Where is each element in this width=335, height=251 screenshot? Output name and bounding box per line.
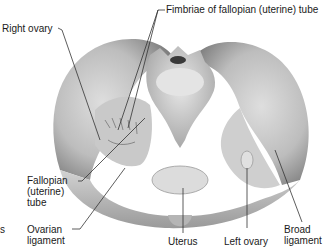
label-left-ovary: Left ovary: [224, 236, 268, 247]
label-broad-ligament: Broad ligament: [284, 224, 322, 246]
label-uterus: Uterus: [168, 236, 197, 247]
label-right-ovary: Right ovary: [2, 23, 53, 34]
sacral-promontory: [156, 68, 204, 96]
left-ovary-shape: [241, 151, 253, 169]
sacral-canal: [170, 56, 186, 64]
label-cropped-fragment: s: [0, 224, 5, 235]
label-fimbriae: Fimbriae of fallopian (uterine) tube: [166, 4, 318, 15]
pelvis-illustration: [0, 0, 335, 251]
uterus-shape: [152, 166, 208, 194]
right-tube-region: [95, 97, 152, 167]
anatomy-figure: Fimbriae of fallopian (uterine) tube Rig…: [0, 0, 335, 251]
label-fallopian-tube: Fallopian (uterine) tube: [27, 175, 68, 208]
label-ovarian-ligament: Ovarian ligament: [27, 224, 65, 246]
